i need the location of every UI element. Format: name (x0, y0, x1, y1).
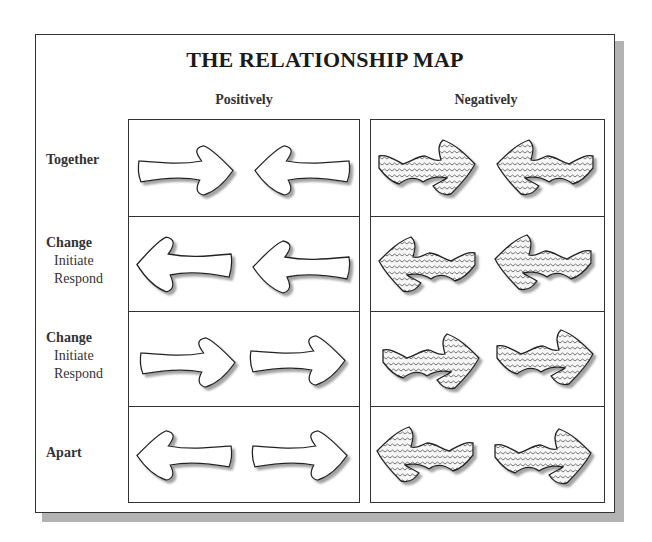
cell-negative-change-right (371, 311, 604, 406)
positive-panel (128, 119, 360, 503)
cell-negative-together (371, 120, 604, 216)
relationship-map-frame: THE RELATIONSHIP MAP Positively Negative… (35, 34, 615, 513)
arrows-right-icon (129, 312, 359, 407)
cell-positive-together (129, 120, 359, 216)
row-label-together: Together (46, 151, 99, 169)
cell-positive-change-left (129, 216, 359, 311)
wavy-arrows-right-icon (371, 312, 604, 407)
cell-negative-apart (371, 406, 604, 501)
row-label-change-2: Change Initiate Respond (46, 329, 103, 383)
row-label-apart: Apart (46, 444, 82, 462)
arrows-diverging-icon (129, 407, 359, 502)
column-header-positively: Positively (128, 92, 360, 108)
wavy-arrows-converging-icon (371, 120, 604, 215)
wavy-arrows-diverging-icon (371, 407, 604, 502)
arrows-converging-icon (129, 120, 359, 215)
cell-positive-change-right (129, 311, 359, 406)
row-label-change-1: Change Initiate Respond (46, 234, 103, 288)
column-header-negatively: Negatively (370, 92, 602, 108)
wavy-arrows-left-icon (371, 217, 604, 312)
cell-positive-apart (129, 406, 359, 501)
negative-panel (370, 119, 605, 503)
cell-negative-change-left (371, 216, 604, 311)
map-title: THE RELATIONSHIP MAP (36, 47, 614, 73)
arrows-left-icon (129, 217, 359, 312)
